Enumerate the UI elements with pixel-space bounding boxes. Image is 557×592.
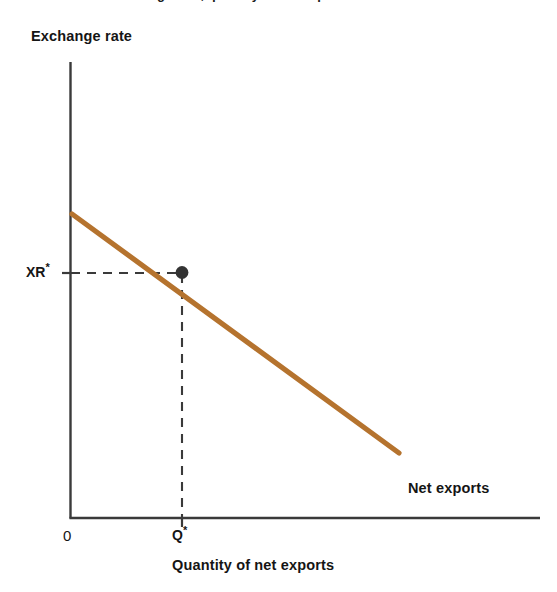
y-axis-equilibrium-label: XR* xyxy=(26,264,50,280)
net-exports-curve xyxy=(72,214,399,453)
q-star-text: * xyxy=(183,524,187,536)
x-axis-equilibrium-label: Q* xyxy=(172,527,187,543)
net-exports-curve-label: Net exports xyxy=(408,480,489,496)
xr-star-text: * xyxy=(45,261,49,273)
q-base-text: Q xyxy=(172,527,183,543)
xr-base-text: XR xyxy=(26,264,45,280)
figure-container: of the exchange rate, quantity of net ex… xyxy=(0,0,557,592)
equilibrium-point-dot xyxy=(176,266,189,279)
origin-label: 0 xyxy=(63,527,71,544)
x-axis-title: Quantity of net exports xyxy=(172,557,334,573)
chart-plot-area xyxy=(0,0,557,592)
